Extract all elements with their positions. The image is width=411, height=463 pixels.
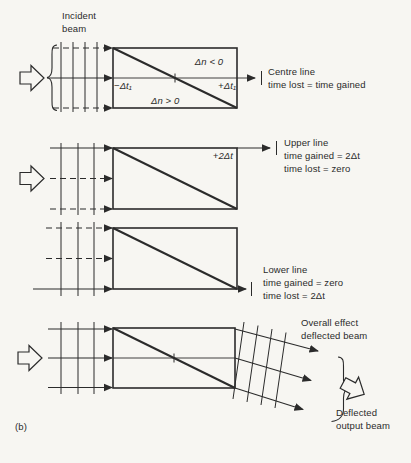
deflected-output-note: Deflected output beam bbox=[336, 406, 390, 432]
minus-delta-t1-label: −Δt₁ bbox=[114, 79, 132, 92]
plus-2-delta-t-label: +2Δt bbox=[204, 149, 233, 162]
output-beam-block-arrow-icon bbox=[337, 372, 370, 405]
figure-acousto-optic-deflection: Incident beam Δn < 0 −Δt₁ +Δt₁ Δn > 0 Ce… bbox=[0, 0, 411, 463]
overall-effect-note: Overall effect deflected beam bbox=[301, 316, 367, 342]
delta-n-negative-label: Δn < 0 bbox=[183, 55, 235, 68]
plus-delta-t1-label: +Δt₁ bbox=[208, 79, 236, 92]
incident-rays bbox=[47, 48, 112, 108]
delta-n-positive-label: Δn > 0 bbox=[151, 94, 179, 107]
lower-line-note: Lower line time gained = zero time lost … bbox=[263, 263, 343, 302]
centre-line-note: Centre line time lost = time gained bbox=[268, 65, 366, 91]
input-beam-block-arrow-icon bbox=[20, 66, 44, 91]
incident-wavefronts bbox=[61, 42, 97, 112]
index-gradient-diagonal bbox=[113, 228, 237, 289]
panel-lower-diagram bbox=[33, 222, 252, 296]
incident-rays bbox=[50, 148, 112, 209]
incident-rays bbox=[48, 329, 112, 388]
figure-sublabel: (b) bbox=[15, 420, 27, 433]
incident-rays bbox=[33, 228, 112, 289]
incident-beam-label: Incident beam bbox=[62, 9, 96, 35]
panel-centre-diagram bbox=[20, 42, 262, 112]
input-beam-block-arrow-icon bbox=[20, 166, 44, 191]
upper-line-note: Upper line time gained = 2Δt time lost =… bbox=[284, 136, 360, 175]
input-beam-block-arrow-icon bbox=[18, 346, 42, 371]
panel-upper-diagram bbox=[20, 141, 277, 215]
